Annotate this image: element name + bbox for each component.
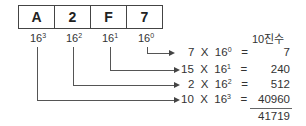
sum-rule <box>250 108 292 109</box>
digit-box-a: A <box>18 5 55 29</box>
power-label-0: 160 <box>138 32 154 44</box>
power-label-2: 162 <box>66 32 82 44</box>
value-row-1: 240 <box>271 63 290 75</box>
connector-line <box>73 47 74 85</box>
value-row-2: 512 <box>271 78 290 90</box>
arrow-icon <box>174 97 180 103</box>
power-label-3: 163 <box>30 32 46 44</box>
decimal-header: 10진수 <box>252 30 284 46</box>
expression-row-2: 2 X 162 = <box>188 78 248 90</box>
total-value: 41719 <box>258 110 290 122</box>
connector-line <box>147 53 169 54</box>
arrow-icon <box>169 50 175 56</box>
digit-box-2: 2 <box>54 5 91 29</box>
value-row-0: 7 <box>284 46 290 58</box>
expression-row-3: 10 X 163 = <box>181 93 247 105</box>
power-label-1: 161 <box>102 32 118 44</box>
expression-row-1: 15 X 161 = <box>181 63 247 75</box>
connector-line <box>110 47 111 71</box>
arrow-icon <box>174 67 180 73</box>
digit-box-7: 7 <box>126 5 163 29</box>
digit-box-f: F <box>90 5 127 29</box>
connector-line <box>37 47 38 100</box>
value-row-3: 40960 <box>258 93 290 105</box>
connector-line <box>37 100 174 101</box>
expression-row-0: 7 X 160 = <box>188 46 248 58</box>
connector-line <box>110 70 174 71</box>
connector-line <box>73 85 174 86</box>
arrow-icon <box>174 82 180 88</box>
